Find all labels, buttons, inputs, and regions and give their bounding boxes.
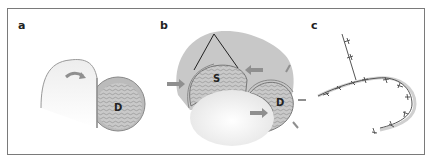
suture-line-c: [318, 78, 415, 130]
panel-a: D: [41, 60, 145, 131]
panel-label-c: c: [311, 19, 318, 32]
finger-shape-a: [41, 60, 97, 128]
suture-stitch-icon: [323, 38, 410, 134]
label-d-a: D: [114, 102, 122, 113]
panel-b: S D: [167, 31, 306, 146]
label-d-b: D: [276, 97, 284, 108]
label-s-b: S: [213, 73, 220, 84]
finger-shape-b: [190, 90, 274, 146]
diagram-canvas: D S D: [0, 0, 431, 162]
panel-label-a: a: [18, 19, 25, 32]
panel-c: [318, 34, 415, 134]
panel-label-b: b: [160, 19, 168, 32]
